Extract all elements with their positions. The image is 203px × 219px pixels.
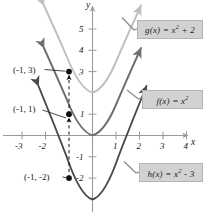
legend-box-g: g(x) = x2 + 2 [137, 20, 203, 39]
y-tick-label-neg1: -1 [76, 153, 84, 162]
x-axis-label: x [191, 138, 195, 148]
x-tick-label-1: 1 [113, 142, 118, 151]
legend-box-h: h(x) = x2 - 3 [139, 163, 203, 182]
legend-text-h: h(x) = x2 - 3 [148, 167, 195, 179]
point-neg1-neg2 [66, 175, 72, 181]
y-axis-label: y [86, 1, 90, 11]
legend-text-f: f(x) = x2 [156, 94, 188, 106]
point-label-neg1-3: (-1, 3) [13, 66, 36, 75]
x-tick-label-4: 4 [184, 142, 189, 151]
point-label-neg1-neg2: (-1, -2) [24, 173, 50, 182]
point-neg1-1 [66, 111, 72, 117]
x-tick-label-2: 2 [137, 142, 142, 151]
legend-box-f: f(x) = x2 [142, 90, 203, 109]
x-tick-label-neg3: -3 [15, 142, 23, 151]
y-tick-label-4: 4 [79, 46, 84, 55]
y-tick-label-1: 1 [80, 110, 85, 119]
point-label-neg1-1: (-1, 1) [13, 105, 36, 114]
y-tick-label-5: 5 [79, 25, 84, 34]
legend-text-g: g(x) = x2 + 2 [145, 23, 195, 35]
y-tick-label-neg2: -2 [76, 174, 84, 183]
x-tick-label-neg2: -2 [39, 142, 47, 151]
y-tick-label-3: 3 [79, 68, 84, 77]
graph-figure: x y -3 -2 1 2 3 4 5 4 3 1 -1 -2 (-1, 3) … [0, 0, 203, 219]
point-neg1-3 [66, 69, 72, 75]
x-tick-label-3: 3 [160, 142, 165, 151]
